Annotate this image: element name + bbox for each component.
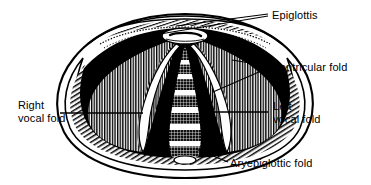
larynx-artwork xyxy=(0,0,371,185)
label-left-vocal-fold: Left vocal fold xyxy=(273,100,320,126)
label-ventricular-fold-line-1: Ventricular fold xyxy=(273,61,347,74)
label-left-vocal-fold-line-1: Left xyxy=(273,100,320,113)
larynx-diagram: Epiglottis Ventricular fold Right vocal … xyxy=(0,0,371,185)
label-epiglottis-line-1: Epiglottis xyxy=(272,9,318,22)
interarytenoid-notch xyxy=(174,156,196,164)
label-right-vocal-fold-line-1: Right xyxy=(18,99,65,112)
label-epiglottis: Epiglottis xyxy=(272,9,318,22)
label-right-vocal-fold: Right vocal fold xyxy=(18,99,65,125)
label-left-vocal-fold-line-2: vocal fold xyxy=(273,113,320,126)
label-aryepiglottic-fold-line-1: Aryepiglottic fold xyxy=(230,157,313,170)
label-aryepiglottic-fold: Aryepiglottic fold xyxy=(230,157,313,170)
label-ventricular-fold: Ventricular fold xyxy=(273,61,347,74)
label-right-vocal-fold-line-2: vocal fold xyxy=(18,112,65,125)
